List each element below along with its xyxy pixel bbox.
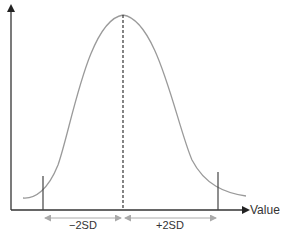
plus-2sd-label: +2SD <box>156 219 184 231</box>
x-axis-label: Value <box>250 203 280 217</box>
bell-curve-diagram <box>0 0 287 237</box>
normal-curve <box>23 15 246 198</box>
minus-2sd-label: −2SD <box>69 219 97 231</box>
